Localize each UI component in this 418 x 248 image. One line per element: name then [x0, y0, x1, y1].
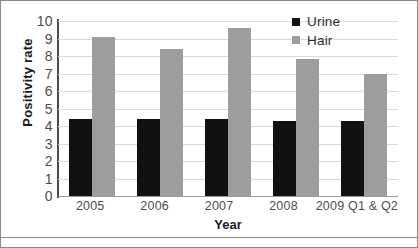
gridline-0	[58, 196, 398, 197]
y-tick-2: 2	[7, 154, 53, 168]
bar-group-2009	[330, 21, 398, 196]
x-tick-2005: 2005	[58, 199, 122, 213]
bar-urine-2009[interactable]	[341, 121, 364, 196]
y-axis-title: Positivity rate	[20, 13, 35, 153]
bar-hair-2007[interactable]	[228, 28, 251, 196]
legend-entry-hair[interactable]: Hair	[292, 34, 340, 48]
bar-urine-2006[interactable]	[137, 119, 160, 196]
bar-hair-2009[interactable]	[364, 74, 387, 197]
bar-group-2006	[126, 21, 194, 196]
x-tick-2009: 2009 Q1 & Q2	[316, 199, 398, 213]
legend-label-urine: Urine	[307, 15, 340, 29]
x-axis-title: Year	[58, 217, 398, 232]
legend-label-hair: Hair	[307, 34, 333, 48]
bar-group-2005	[58, 21, 126, 196]
bar-urine-2008[interactable]	[273, 121, 296, 196]
bar-hair-2005[interactable]	[92, 37, 115, 196]
bar-hair-2006[interactable]	[160, 49, 183, 196]
x-tick-2007: 2007	[187, 199, 251, 213]
bar-group-2007	[194, 21, 262, 196]
legend-entry-urine[interactable]: Urine	[292, 15, 340, 29]
bar-hair-2008[interactable]	[296, 59, 319, 196]
y-tick-0: 0	[7, 189, 53, 203]
x-tick-2008: 2008	[251, 199, 315, 213]
bar-groups	[58, 21, 398, 196]
legend-swatch-urine-icon	[292, 18, 300, 26]
legend-swatch-hair-icon	[292, 36, 300, 44]
bottom-divider	[1, 237, 417, 238]
chart-legend: Urine Hair	[292, 15, 340, 47]
chart-figure: 10 9 8 7 6 5 4 3 2 1 0 Positivity rate	[0, 0, 418, 248]
bar-urine-2005[interactable]	[69, 119, 92, 196]
bar-urine-2007[interactable]	[205, 119, 228, 196]
plot-area	[58, 21, 398, 196]
y-tick-1: 1	[7, 172, 53, 186]
x-tick-2006: 2006	[122, 199, 186, 213]
x-axis-tick-labels: 2005 2006 2007 2008 2009 Q1 & Q2	[58, 199, 398, 213]
